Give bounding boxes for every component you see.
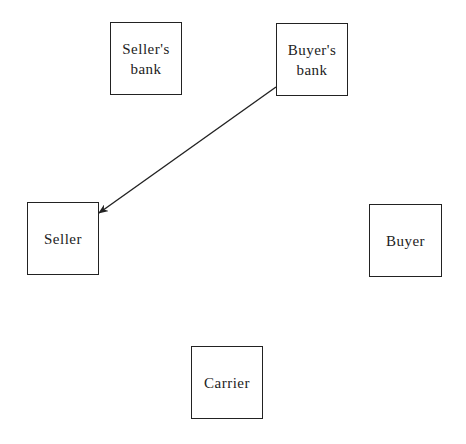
node-seller: Seller (27, 202, 99, 275)
node-label: Carrier (204, 373, 250, 393)
node-label: Buyer (386, 231, 425, 251)
node-buyer: Buyer (369, 204, 442, 277)
node-sellers-bank: Seller's bank (110, 22, 182, 95)
node-label: Buyer's bank (288, 40, 337, 80)
node-label: Seller's bank (122, 39, 170, 79)
node-label: Seller (44, 229, 82, 249)
node-carrier: Carrier (191, 346, 263, 419)
node-buyers-bank: Buyer's bank (276, 23, 348, 96)
arrow-buyers-bank-to-seller (99, 87, 276, 213)
